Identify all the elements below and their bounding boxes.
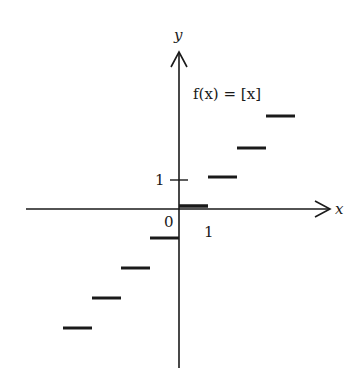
step-function-graph: y x f(x) = [x] 0 1 1 — [0, 0, 364, 375]
x-axis-label: x — [335, 200, 344, 218]
function-label: f(x) = [x] — [193, 85, 261, 103]
origin-label: 0 — [164, 213, 174, 231]
y-tick-label-1: 1 — [155, 171, 165, 189]
x-tick-label-1: 1 — [204, 223, 214, 241]
y-axis-label: y — [173, 26, 183, 44]
